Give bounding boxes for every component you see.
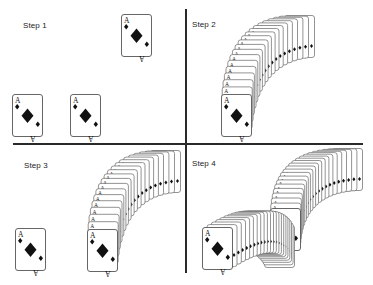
card-shuffle-diagram: Step 1 Step 2 Step 3 Step 4 A A A (0, 0, 373, 285)
front-ace-card (88, 230, 118, 278)
step-1-single-ace-card (13, 95, 43, 143)
front-ace-card (222, 95, 252, 143)
cards-illustration: A A A (0, 0, 373, 285)
step-1-single-ace-card (71, 95, 101, 143)
step-2-card-fan (222, 16, 315, 143)
step-3-single-ace-card (16, 229, 46, 277)
single-cards-layer (13, 15, 152, 277)
front-ace-card (203, 228, 233, 276)
step-3-card-fan (88, 151, 181, 278)
step-4-card-fan (203, 211, 295, 276)
step-1-single-ace-card (122, 15, 152, 63)
